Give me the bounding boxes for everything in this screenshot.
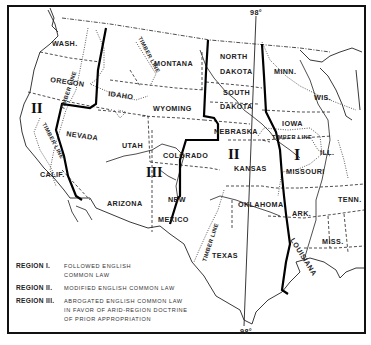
legend-key: REGION I. <box>16 262 50 269</box>
legend-text: IN FAVOR OF ARID-REGION DOCTRINE <box>64 307 188 313</box>
legend-item-region-ii: REGION II. MODIFIED ENGLISH COMMON LAW <box>16 284 175 291</box>
region-marker-ii-plains: II <box>228 146 240 162</box>
label-minn: MINN. <box>274 67 296 76</box>
timber-line-label: TIMBER LINE <box>41 122 65 160</box>
label-arizona: ARIZONA <box>107 199 143 208</box>
legend-key: REGION II. <box>16 284 52 291</box>
region-marker-iii: III <box>146 165 162 180</box>
great-lakes <box>300 48 362 120</box>
label-calif: CALIF. <box>40 170 65 179</box>
label-idaho: IDAHO <box>108 89 134 101</box>
legend-text: OF PRIOR APPROPRIATION <box>64 316 151 322</box>
legend-text: ABROGATED ENGLISH COMMON LAW <box>64 298 183 304</box>
label-dakota-n: DAKOTA <box>220 67 253 76</box>
legend-item-region-iii: REGION III. ABROGATED ENGLISH COMMON LAW… <box>16 297 188 322</box>
legend-key: REGION III. <box>16 297 54 304</box>
label-mexico: MEXICO <box>158 215 189 224</box>
label-oklahoma: OKLAHOMA <box>238 200 284 209</box>
label-ill: ILL. <box>320 148 334 157</box>
label-iowa: IOWA <box>282 119 303 128</box>
label-wis: WIS. <box>314 93 331 102</box>
label-nebraska: NEBRASKA <box>214 127 258 136</box>
legend-text: FOLLOWED ENGLISH <box>64 263 131 269</box>
legend: REGION I. FOLLOWED ENGLISH COMMON LAW RE… <box>16 262 188 322</box>
legend-text: COMMON LAW <box>64 272 110 278</box>
meridian-label-bottom: 98° <box>240 327 252 336</box>
label-ark: ARK. <box>292 209 311 218</box>
label-wash: WASH. <box>52 39 78 48</box>
region-marker-ii-west: II <box>31 100 43 116</box>
label-dakota-s: DAKOTA <box>220 102 253 111</box>
label-missouri: MISSOURI <box>286 167 325 176</box>
label-kansas: KANSAS <box>234 164 267 173</box>
water-law-regions-map: 98° 98° WASH. OREGON CALIF. IDAHO NEVADA… <box>0 0 371 345</box>
region-marker-i: I <box>294 146 300 163</box>
label-wyoming: WYOMING <box>153 104 192 113</box>
label-louisiana: LOUISIANA <box>288 236 318 277</box>
timber-lines <box>34 28 356 262</box>
meridian-label-top: 98° <box>250 8 262 17</box>
label-north: NORTH <box>220 52 248 61</box>
timber-line-label: TIMBER LINE <box>272 134 312 140</box>
legend-item-region-i: REGION I. FOLLOWED ENGLISH COMMON LAW <box>16 262 131 278</box>
timber-line-label: TIMBER LINE <box>137 36 161 74</box>
label-nevada: NEVADA <box>66 129 99 142</box>
label-south: SOUTH <box>223 88 250 97</box>
state-labels: WASH. OREGON CALIF. IDAHO NEVADA MONTANA… <box>40 39 362 278</box>
label-utah: UTAH <box>122 141 143 150</box>
label-miss: MISS. <box>322 237 344 246</box>
label-tenn: TENN. <box>338 195 362 204</box>
legend-text: MODIFIED ENGLISH COMMON LAW <box>64 285 175 291</box>
label-colorado: COLORADO <box>163 151 208 160</box>
label-new: NEW <box>168 195 186 204</box>
label-texas: TEXAS <box>212 251 238 260</box>
